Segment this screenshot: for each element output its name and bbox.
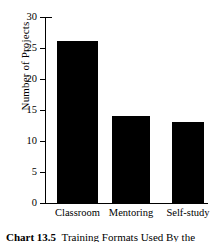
y-tick-label: 10 (27, 136, 38, 147)
plot-area: 0 5 10 15 20 25 30 Classro (45, 17, 208, 204)
y-axis-top-stub (45, 17, 52, 18)
caption-text: Training Formats Used By the (62, 231, 195, 242)
bar-self-study (172, 122, 204, 203)
x-tick-label-self-study: Self-study (148, 207, 218, 219)
y-tick-label: 25 (27, 43, 38, 54)
y-tick-mark (40, 172, 46, 173)
y-tick-label: 5 (32, 167, 37, 178)
y-tick-mark (40, 48, 46, 49)
y-tick-label: 0 (32, 198, 37, 209)
bar-classroom (57, 41, 98, 203)
y-tick-label: 15 (27, 105, 38, 116)
y-tick-mark (40, 79, 46, 80)
caption-label: Chart 13.5 (6, 231, 56, 242)
y-tick-mark (40, 17, 46, 18)
y-tick-label: 30 (27, 12, 38, 23)
y-tick-label: 20 (27, 74, 38, 85)
y-tick-mark (40, 110, 46, 111)
x-axis-line (45, 203, 208, 204)
figure-caption: Chart 13.5 Training Formats Used By the (6, 231, 218, 242)
y-tick-mark (40, 203, 46, 204)
bar-chart-figure: Number of Projects 0 5 10 15 20 25 (0, 0, 218, 242)
y-tick-mark (40, 141, 46, 142)
bar-mentoring (112, 116, 150, 203)
